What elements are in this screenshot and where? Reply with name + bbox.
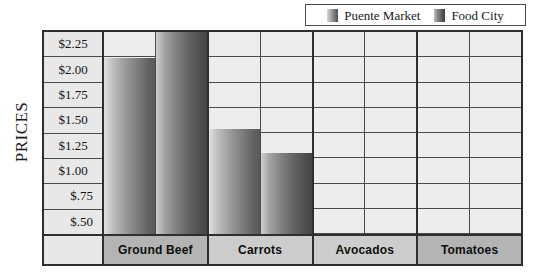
cell-ground-beef-food-city xyxy=(156,32,207,234)
category-label-avocados: Avocados xyxy=(314,236,419,264)
cell-tomatoes-puente-market xyxy=(418,32,470,234)
bar-ground-beef-food-city[interactable] xyxy=(156,32,207,234)
gridline xyxy=(314,209,365,234)
gridline xyxy=(314,133,365,158)
y-axis-tick-labels: $2.25 $2.00 $1.75 $1.50 $1.25 $1.00 $.75… xyxy=(44,32,104,234)
gridline xyxy=(470,133,521,158)
cell-avocados-puente-market xyxy=(314,32,366,234)
category-label-tomatoes: Tomatoes xyxy=(418,236,521,264)
gridline xyxy=(365,158,416,183)
bar-group-tomatoes xyxy=(418,32,521,234)
gridline xyxy=(314,158,365,183)
gridline xyxy=(314,32,365,57)
gridline xyxy=(365,83,416,108)
puente-swatch-icon xyxy=(327,9,338,22)
gridline xyxy=(470,158,521,183)
legend-label-food-city: Food City xyxy=(451,9,503,22)
gridline xyxy=(209,83,260,108)
gridline xyxy=(365,108,416,133)
gridline xyxy=(418,83,469,108)
gridline xyxy=(261,32,312,57)
gridline xyxy=(418,108,469,133)
legend-entry-food-city: Food City xyxy=(427,9,510,22)
gridline xyxy=(418,158,469,183)
gridline xyxy=(104,32,155,57)
y-axis-title: PRICES xyxy=(12,87,32,177)
category-label-cells: Ground Beef Carrots Avocados Tomatoes xyxy=(104,236,521,264)
bar-carrots-puente-market[interactable] xyxy=(209,129,260,234)
gridline xyxy=(418,57,469,82)
gridline xyxy=(418,133,469,158)
category-label-ground-beef: Ground Beef xyxy=(104,236,209,264)
cell-avocados-food-city xyxy=(365,32,416,234)
y-tick-0-50: $.50 xyxy=(44,210,102,234)
gridline xyxy=(365,133,416,158)
food-city-swatch-icon xyxy=(434,9,445,22)
plot-area xyxy=(104,32,521,234)
gridline xyxy=(314,184,365,209)
y-tick-1-00: $1.00 xyxy=(44,159,102,184)
gridline xyxy=(209,32,260,57)
gridline xyxy=(261,83,312,108)
gridline xyxy=(470,108,521,133)
x-axis-category-row: Ground Beef Carrots Avocados Tomatoes xyxy=(44,234,521,264)
gridline xyxy=(470,32,521,57)
cell-carrots-food-city xyxy=(261,32,312,234)
gridline xyxy=(470,83,521,108)
gridline xyxy=(470,184,521,209)
legend-entry-puente-market: Puente Market xyxy=(320,9,427,22)
bar-carrots-food-city[interactable] xyxy=(261,153,312,234)
gridline xyxy=(365,32,416,57)
gridline xyxy=(314,83,365,108)
legend-label-puente-market: Puente Market xyxy=(344,9,420,22)
cell-carrots-puente-market xyxy=(209,32,261,234)
gridline xyxy=(261,108,312,133)
gridline xyxy=(365,184,416,209)
gridline xyxy=(418,32,469,57)
cell-tomatoes-food-city xyxy=(470,32,521,234)
y-tick-2-25: $2.25 xyxy=(44,32,102,57)
gridline xyxy=(470,209,521,234)
bar-ground-beef-puente-market[interactable] xyxy=(104,58,155,234)
category-label-carrots: Carrots xyxy=(209,236,314,264)
gridline xyxy=(418,184,469,209)
gridline xyxy=(470,57,521,82)
axis-corner-cell xyxy=(44,236,104,264)
gridline xyxy=(365,209,416,234)
gridline xyxy=(418,209,469,234)
gridline xyxy=(261,57,312,82)
y-tick-1-50: $1.50 xyxy=(44,108,102,133)
y-tick-1-25: $1.25 xyxy=(44,134,102,159)
gridline xyxy=(365,57,416,82)
gridline xyxy=(209,57,260,82)
bar-group-avocados xyxy=(314,32,419,234)
chart-plot-frame: $2.25 $2.00 $1.75 $1.50 $1.25 $1.00 $.75… xyxy=(42,30,523,266)
plot-row: $2.25 $2.00 $1.75 $1.50 $1.25 $1.00 $.75… xyxy=(44,32,521,234)
y-tick-2-00: $2.00 xyxy=(44,57,102,82)
bar-group-ground-beef xyxy=(104,32,209,234)
chart-legend: Puente Market Food City xyxy=(305,4,526,26)
y-tick-0-75: $.75 xyxy=(44,184,102,209)
y-tick-1-75: $1.75 xyxy=(44,83,102,108)
gridline xyxy=(314,57,365,82)
gridline xyxy=(314,108,365,133)
bar-group-carrots xyxy=(209,32,314,234)
cell-ground-beef-puente-market xyxy=(104,32,156,234)
